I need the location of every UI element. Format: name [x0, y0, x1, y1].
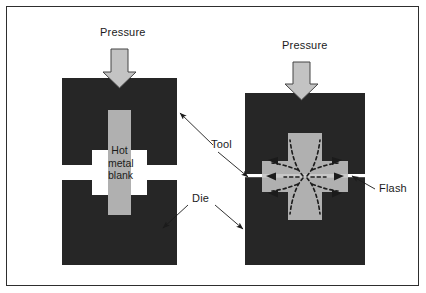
right-pressure-label: Pressure: [282, 39, 328, 51]
blank-label-line-3: blank: [108, 169, 131, 182]
tool-leader-left: [180, 113, 213, 145]
left-pressure-label: Pressure: [100, 26, 146, 38]
die-leader-right: [215, 205, 243, 229]
hot-metal-blank-label: Hot metal blank: [108, 144, 131, 182]
tool-label: Tool: [211, 138, 232, 150]
flash-label: Flash: [379, 182, 407, 194]
forging-diagram-figure: Pressure Pressure Hot metal blank Tool D…: [0, 0, 426, 293]
tool-leader-right: [218, 152, 248, 177]
blank-label-line-1: Hot: [108, 144, 131, 157]
blank-label-line-2: metal: [108, 157, 131, 170]
die-label: Die: [192, 192, 209, 204]
right-stage-group: [233, 93, 377, 265]
